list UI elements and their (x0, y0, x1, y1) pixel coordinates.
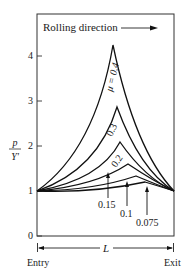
friction-hill-chart: Rolling direction 0 1 2 3 4 p Y' μ = 0.4… (0, 0, 190, 272)
y-tick-4: 4 (28, 50, 33, 61)
exit-label: Exit (164, 257, 181, 268)
entry-label: Entry (27, 257, 49, 268)
friction-hill-curves (37, 45, 174, 191)
y-tick-2: 2 (28, 140, 33, 151)
curve-mu-0.4 (37, 45, 174, 191)
label-mu-0.15: 0.15 (98, 199, 116, 210)
label-mu-0.1: 0.1 (120, 208, 133, 219)
length-label: L (102, 242, 109, 254)
label-mu-0.4: μ = 0.4 (103, 61, 121, 93)
y-tick-1: 1 (28, 185, 33, 196)
label-mu-0.075: 0.075 (136, 217, 159, 228)
label-mu-0.3: 0.3 (104, 122, 119, 138)
y-label-denominator: Y' (11, 151, 20, 162)
y-axis (37, 56, 42, 236)
y-tick-0: 0 (28, 230, 33, 241)
y-label-numerator: p (12, 137, 18, 148)
rolling-direction-arrow-icon (121, 26, 158, 31)
rolling-direction-label: Rolling direction (43, 21, 118, 33)
y-tick-3: 3 (28, 95, 33, 106)
